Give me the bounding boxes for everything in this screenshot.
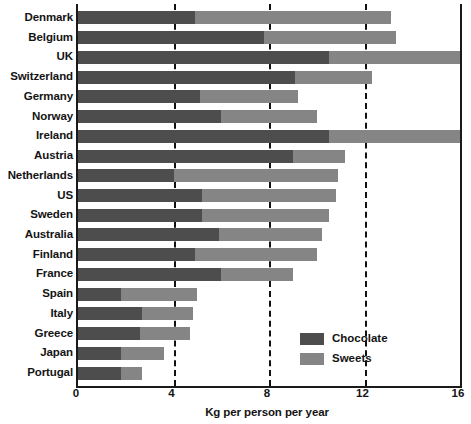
category-label: Australia — [25, 229, 73, 241]
bar-row: Germany — [78, 90, 298, 103]
legend-label: Sweets — [332, 353, 372, 365]
bar-row: US — [78, 189, 336, 202]
x-tick-label: 12 — [356, 388, 369, 400]
plot-area: DenmarkBelgiumUKSwitzerlandGermanyNorway… — [76, 4, 462, 388]
bar-segment-sweets — [329, 51, 460, 64]
bar-segment-chocolate — [78, 367, 121, 380]
bar-row: Denmark — [78, 11, 391, 24]
bar-segment-chocolate — [78, 347, 121, 360]
category-label: Finland — [33, 249, 73, 261]
bar-segment-sweets — [200, 90, 298, 103]
legend-swatch-sweets — [300, 353, 324, 365]
bar-row: Italy — [78, 307, 193, 320]
bar-row: Greece — [78, 327, 190, 340]
category-label: France — [36, 269, 73, 281]
stacked-bar-chart: DenmarkBelgiumUKSwitzerlandGermanyNorway… — [0, 0, 471, 424]
bar-segment-chocolate — [78, 71, 295, 84]
bar-segment-sweets — [202, 209, 329, 222]
legend-label: Chocolate — [332, 333, 388, 345]
x-axis: 0481216 — [76, 388, 458, 406]
bar-segment-chocolate — [78, 130, 329, 143]
bar-row: Japan — [78, 347, 164, 360]
bar-segment-chocolate — [78, 288, 121, 301]
bar-segment-sweets — [174, 169, 339, 182]
bar-segment-sweets — [221, 268, 293, 281]
x-tick-label: 0 — [73, 388, 79, 400]
x-tick-label: 4 — [168, 388, 174, 400]
bar-row: Ireland — [78, 130, 460, 143]
bar-segment-sweets — [329, 130, 460, 143]
bar-segment-chocolate — [78, 209, 202, 222]
bar-segment-sweets — [121, 347, 164, 360]
bar-segment-sweets — [264, 31, 395, 44]
legend-item: Sweets — [300, 350, 400, 367]
bar-row: France — [78, 268, 293, 281]
bar-row: Austria — [78, 150, 345, 163]
bar-row: Netherlands — [78, 169, 338, 182]
category-label: Switzerland — [10, 71, 73, 83]
bar-segment-sweets — [293, 150, 346, 163]
bar-segment-sweets — [202, 189, 336, 202]
chart-legend: ChocolateSweets — [300, 330, 400, 370]
bar-row: Sweden — [78, 209, 329, 222]
bar-row: UK — [78, 51, 460, 64]
x-tick-label: 8 — [264, 388, 270, 400]
category-label: Belgium — [28, 32, 73, 44]
bar-row: Finland — [78, 248, 317, 261]
category-label: UK — [57, 52, 73, 64]
bar-segment-sweets — [221, 110, 317, 123]
category-label: Italy — [50, 308, 73, 320]
category-label: Japan — [40, 348, 73, 360]
bar-segment-chocolate — [78, 189, 202, 202]
bar-segment-chocolate — [78, 110, 221, 123]
bar-row: Spain — [78, 288, 197, 301]
bar-segment-chocolate — [78, 51, 329, 64]
legend-swatch-chocolate — [300, 333, 324, 345]
bar-row: Belgium — [78, 31, 396, 44]
bar-segment-sweets — [142, 307, 192, 320]
category-label: Norway — [32, 111, 73, 123]
category-label: Netherlands — [8, 170, 73, 182]
category-label: Germany — [24, 91, 73, 103]
bar-segment-chocolate — [78, 307, 142, 320]
x-axis-title: Kg per person per year — [76, 406, 458, 418]
bar-segment-sweets — [195, 11, 391, 24]
bar-row: Portugal — [78, 367, 142, 380]
category-label: Denmark — [24, 12, 73, 24]
bar-segment-sweets — [121, 288, 197, 301]
category-label: Greece — [35, 328, 73, 340]
bar-row: Switzerland — [78, 71, 372, 84]
category-label: Spain — [42, 288, 73, 300]
bar-segment-sweets — [140, 327, 190, 340]
bar-segment-chocolate — [78, 169, 174, 182]
bar-row: Norway — [78, 110, 317, 123]
bar-segment-chocolate — [78, 327, 140, 340]
category-label: Austria — [34, 150, 73, 162]
bar-segment-chocolate — [78, 150, 293, 163]
bar-segment-chocolate — [78, 90, 200, 103]
category-label: Portugal — [27, 367, 73, 379]
bar-segment-sweets — [195, 248, 317, 261]
bar-segment-sweets — [219, 228, 322, 241]
bar-segment-chocolate — [78, 228, 219, 241]
bar-row: Australia — [78, 228, 322, 241]
legend-item: Chocolate — [300, 330, 400, 347]
bar-segment-chocolate — [78, 31, 264, 44]
bar-segment-chocolate — [78, 268, 221, 281]
bar-segment-chocolate — [78, 11, 195, 24]
bar-segment-chocolate — [78, 248, 195, 261]
category-label: US — [57, 190, 73, 202]
bar-segment-sweets — [121, 367, 142, 380]
bar-segment-sweets — [295, 71, 371, 84]
category-label: Sweden — [30, 209, 73, 221]
x-tick-label: 16 — [452, 388, 465, 400]
category-label: Ireland — [36, 131, 73, 143]
